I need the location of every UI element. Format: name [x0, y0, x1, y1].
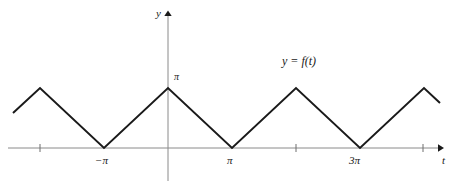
function-annotation: y = f(t)	[282, 55, 316, 67]
y-axis-arrowhead	[164, 11, 171, 17]
y-axis-label: y	[156, 8, 161, 19]
figure-canvas: y t π −π π 3π y = f(t)	[0, 0, 455, 192]
y-axis	[164, 11, 171, 182]
function-curve	[13, 88, 440, 148]
t-axis-arrowhead	[438, 144, 444, 152]
t-tick-label-pi: π	[227, 155, 233, 166]
t-axis	[8, 144, 444, 152]
t-tick-label-3pi: 3π	[349, 155, 360, 166]
y-tick-label-pi: π	[174, 72, 179, 82]
t-axis-label: t	[442, 155, 445, 166]
t-tick-label-neg-pi: −π	[95, 155, 108, 166]
